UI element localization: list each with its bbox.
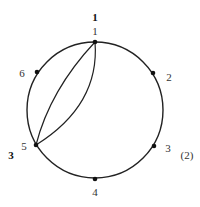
chord-diagram: 1 2 3 4 5 6 1 3 (2) xyxy=(0,0,200,207)
chord-1-5-right xyxy=(36,42,95,145)
vertex-3-dot xyxy=(152,144,157,149)
vertex-6-dot xyxy=(35,70,40,75)
vertex-4-dot xyxy=(93,177,98,182)
vertex-label-2: 2 xyxy=(166,71,172,83)
vertex-1-dot xyxy=(93,40,98,45)
vertex-5-dot xyxy=(34,143,39,148)
vertex-label-5: 5 xyxy=(21,140,27,152)
vertex-label-4: 4 xyxy=(92,186,98,198)
vertex-label-6: 6 xyxy=(19,67,25,79)
figure-caption: (2) xyxy=(181,149,194,162)
bold-label-top: 1 xyxy=(92,11,98,23)
vertex-2-dot xyxy=(151,71,156,76)
vertex-label-1: 1 xyxy=(92,25,98,37)
bold-label-left: 3 xyxy=(8,149,14,161)
vertex-label-3: 3 xyxy=(165,142,171,154)
